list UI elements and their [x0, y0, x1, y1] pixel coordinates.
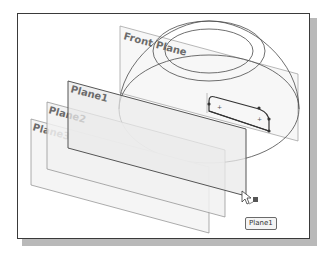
cursor-icon	[242, 191, 258, 204]
model-scene[interactable]: Front Plane + + Plane3	[18, 14, 310, 239]
svg-text:+: +	[217, 103, 222, 110]
svg-text:+: +	[257, 115, 262, 122]
plane-tooltip: Plane1	[245, 217, 277, 230]
graphics-viewport[interactable]: Front Plane + + Plane3	[17, 13, 310, 239]
